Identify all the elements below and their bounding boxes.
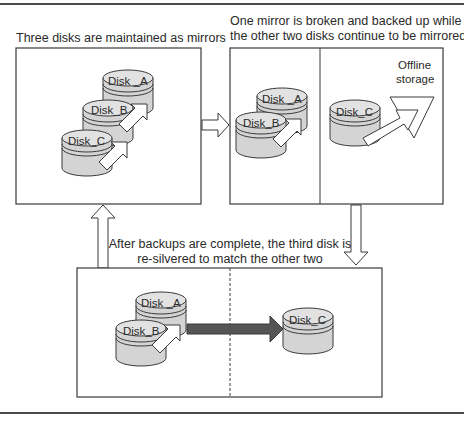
up-arrow-icon (91, 205, 115, 268)
svg-text:Disk_C: Disk_C (68, 135, 105, 147)
stage3-disk-c: Disk_C (283, 308, 333, 354)
offline-label-line1: Offline (398, 59, 431, 71)
down-arrow-icon (344, 205, 368, 265)
offline-label-line2: storage (396, 73, 434, 85)
svg-text:Disk_C: Disk_C (289, 314, 326, 326)
svg-text:Disk _A: Disk _A (141, 297, 181, 309)
svg-text:Disk _A: Disk _A (108, 75, 148, 87)
svg-text:Disk_C: Disk_C (336, 106, 373, 118)
diagram-canvas: Disk _A Disk_B Disk_C Disk _A Disk_B Dis… (0, 0, 464, 421)
right-arrow-icon (202, 113, 229, 137)
svg-text:Disk_B: Disk_B (123, 325, 160, 337)
svg-text:Disk _A: Disk _A (262, 93, 302, 105)
svg-text:Disk_B: Disk_B (91, 104, 128, 116)
svg-text:Disk_B: Disk_B (243, 117, 280, 129)
stage1-disk-c: Disk_C (62, 130, 112, 176)
